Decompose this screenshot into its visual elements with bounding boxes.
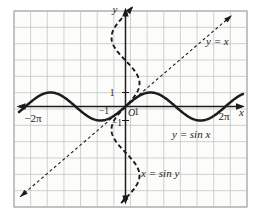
tick-label-1-x: 1 bbox=[134, 107, 139, 117]
y-axis-label: y bbox=[112, 3, 118, 15]
trig-graph: y x O −2π 2π −1 1 1 −1 y = x y = sin x x… bbox=[0, 0, 260, 217]
tick-label-2pi: 2π bbox=[218, 110, 230, 122]
tick-label-1-y: 1 bbox=[110, 88, 115, 98]
x-axis-label: x bbox=[238, 106, 244, 118]
curve-label-y-sin-x: y = sin x bbox=[171, 128, 210, 140]
tick-label-neg-1-y: −1 bbox=[112, 118, 122, 128]
curve-label-y-equals-x: y = x bbox=[205, 35, 229, 47]
curve-label-x-sin-y: x = sin y bbox=[140, 167, 179, 179]
figure: y x O −2π 2π −1 1 1 −1 y = x y = sin x x… bbox=[0, 0, 260, 217]
tick-label-neg-1-x: −1 bbox=[99, 106, 109, 116]
tick-label-neg-2pi: −2π bbox=[24, 112, 42, 124]
